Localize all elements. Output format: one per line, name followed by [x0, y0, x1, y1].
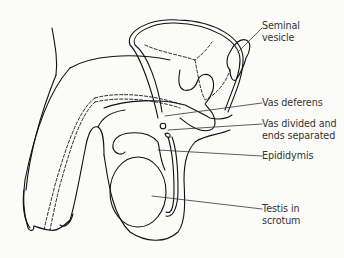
- label-testis: Testis in scrotum: [262, 203, 300, 227]
- label-seminal-vesicle: Seminal vesicle: [262, 20, 300, 44]
- vas-deferens-loop: [134, 23, 240, 112]
- label-epididymis: Epididymis: [262, 150, 313, 162]
- penis-outline: [24, 68, 70, 230]
- prostate: [179, 70, 215, 131]
- testis: [110, 157, 166, 227]
- abdomen-outline: [52, 28, 57, 75]
- label-vas-deferens: Vas deferens: [262, 97, 323, 109]
- vas-cut-end-upper: [160, 123, 166, 129]
- scrotum: [104, 130, 230, 240]
- label-vas-divided: Vas divided and ends separated: [262, 118, 337, 142]
